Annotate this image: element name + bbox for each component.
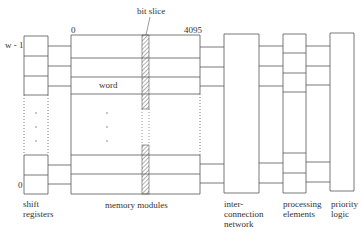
interconnection-network-block	[224, 34, 259, 193]
processing-elements-block	[283, 34, 306, 193]
connector-2	[200, 47, 224, 183]
shift-registers-block	[24, 36, 48, 194]
connector-1	[48, 46, 71, 184]
connector-4	[306, 46, 330, 182]
connector-3	[259, 46, 283, 183]
ellipsis-dots	[35, 112, 107, 141]
priority-logic-label: priority logic	[331, 199, 358, 219]
bit-slice-column	[142, 35, 149, 194]
column-start-label: 0	[71, 25, 76, 35]
priority-logic-block	[330, 33, 354, 191]
column-end-label: 4095	[184, 25, 202, 35]
bit-slice-leader	[146, 17, 150, 35]
row-bottom-label: 0	[18, 180, 23, 190]
memory-modules-block	[71, 35, 200, 194]
word-label: word	[99, 80, 118, 90]
interconnection-network-label: inter- connection network	[224, 199, 264, 229]
memory-modules-label: memory modules	[105, 200, 168, 210]
row-top-label: w - 1	[5, 40, 24, 50]
shift-registers-label: shift registers	[23, 199, 54, 219]
bit-slice-label: bit slice	[137, 6, 165, 16]
processing-elements-label: processing elements	[283, 199, 322, 219]
